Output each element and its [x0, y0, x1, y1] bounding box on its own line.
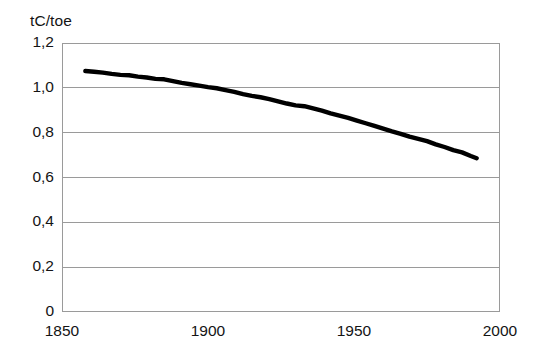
- y-tick-label: 0,6: [2, 168, 54, 186]
- gridline-horizontal: [62, 87, 500, 88]
- y-tick-label: 1,2: [2, 33, 54, 51]
- y-tick-label: 0,8: [2, 123, 54, 141]
- y-tick-label: 0,4: [2, 212, 54, 230]
- x-tick-label: 1950: [319, 322, 389, 340]
- gridline-horizontal: [62, 222, 500, 223]
- gridline-horizontal: [62, 177, 500, 178]
- gridline-horizontal: [62, 267, 500, 268]
- x-tick-label: 1850: [27, 322, 97, 340]
- x-tick-label: 1900: [173, 322, 243, 340]
- y-axis-unit-label: tC/toe: [30, 12, 72, 30]
- gridline-horizontal: [62, 132, 500, 133]
- x-tick-label: 2000: [465, 322, 535, 340]
- chart-figure: tC/toe 00,20,40,60,81,01,2 1850190019502…: [0, 0, 541, 364]
- y-tick-label: 0: [2, 302, 54, 320]
- y-tick-label: 0,2: [2, 257, 54, 275]
- y-tick-label: 1,0: [2, 78, 54, 96]
